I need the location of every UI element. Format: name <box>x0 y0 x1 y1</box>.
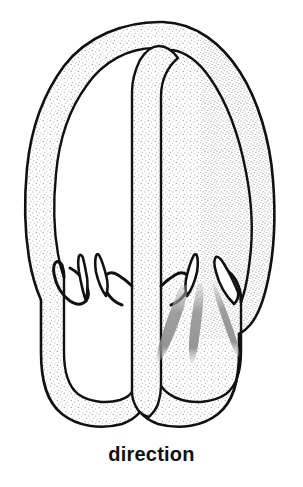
anatomical-diagram <box>0 0 303 487</box>
figure-root: direction <box>0 0 303 487</box>
hook-left-inner-tip <box>95 254 107 296</box>
hook-left-outer-tip <box>78 255 87 301</box>
